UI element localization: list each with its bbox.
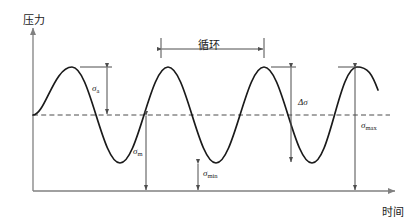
sigma-max-subscript: max xyxy=(365,124,376,131)
sigma-min-subscript: min xyxy=(207,172,217,179)
sigma-a-subscript: a xyxy=(96,87,99,94)
sigma-m-subscript: m xyxy=(137,150,142,157)
stress-cycle-figure: 压力 时间 循环 σa σm σmin Δσ σmax xyxy=(0,0,420,224)
max-stress-label: σmax xyxy=(361,120,377,130)
x-axis-label: 时间 xyxy=(382,203,404,219)
min-stress-label: σmin xyxy=(203,168,218,178)
mean-stress-label: σm xyxy=(133,146,143,156)
max-stress-annotation xyxy=(338,67,360,190)
cycle-label: 循环 xyxy=(198,36,220,52)
stress-amplitude-label: σa xyxy=(92,83,99,93)
y-axis-label: 压力 xyxy=(23,11,45,27)
stress-range-label: Δσ xyxy=(298,97,308,107)
axes xyxy=(33,28,395,191)
figure-canvas xyxy=(0,0,420,224)
